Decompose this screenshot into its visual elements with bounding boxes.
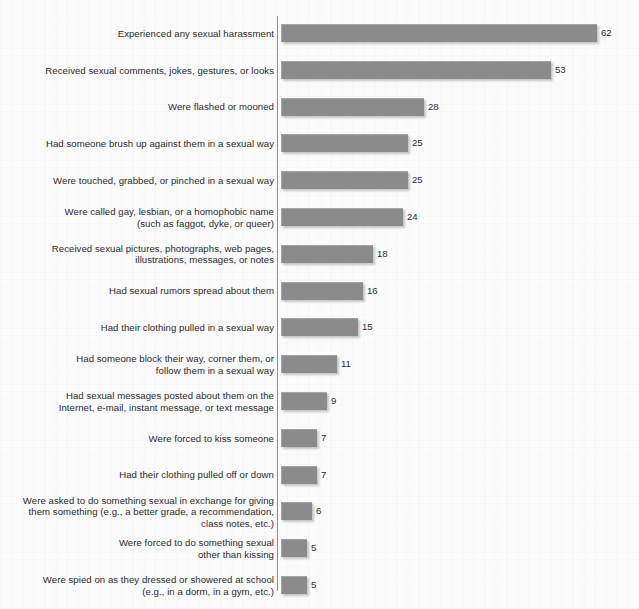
bar-value-label: 16 [367, 285, 378, 296]
bar-wrapper [281, 134, 408, 152]
bar-value-label: 11 [341, 358, 351, 369]
bar [281, 576, 307, 594]
bar [281, 466, 317, 484]
bar-wrapper [281, 466, 317, 484]
bar [281, 171, 408, 189]
bar-value-label: 15 [362, 321, 373, 332]
bar [281, 282, 363, 300]
bar-value-label: 7 [321, 469, 326, 480]
bar-wrapper [281, 355, 337, 373]
category-label: Were asked to do something sexual in exc… [0, 495, 274, 530]
bar-wrapper [281, 208, 403, 226]
category-label: Had someone block their way, corner them… [0, 353, 274, 376]
category-label: Had their clothing pulled in a sexual wa… [0, 322, 274, 334]
bar [281, 355, 337, 373]
bar-value-label: 5 [311, 579, 316, 590]
bar-value-label: 18 [377, 248, 388, 259]
bar-wrapper [281, 576, 307, 594]
bar-value-label: 53 [555, 64, 566, 75]
bar-wrapper [281, 171, 408, 189]
bar-wrapper [281, 429, 317, 447]
bar [281, 98, 424, 116]
bar-value-label: 7 [321, 432, 326, 443]
bar-value-label: 25 [412, 174, 423, 185]
bar [281, 318, 358, 336]
bar [281, 392, 327, 410]
bar-wrapper [281, 392, 327, 410]
bar-value-label: 9 [331, 395, 336, 406]
category-label: Had sexual rumors spread about them [0, 285, 274, 297]
bar-wrapper [281, 282, 363, 300]
category-label: Had someone brush up against them in a s… [0, 138, 274, 150]
category-label: Experienced any sexual harassment [0, 28, 274, 40]
bar [281, 134, 408, 152]
category-label: Had their clothing pulled off or down [0, 469, 274, 481]
bar [281, 245, 373, 263]
bar-value-label: 6 [316, 505, 321, 516]
bar [281, 61, 551, 79]
category-label: Were spied on as they dressed or showere… [0, 574, 274, 597]
bar [281, 429, 317, 447]
bar-wrapper [281, 245, 373, 263]
category-label: Were called gay, lesbian, or a homophobi… [0, 206, 274, 229]
bar-wrapper [281, 24, 597, 42]
category-label: Received sexual pictures, photographs, w… [0, 243, 274, 266]
bar-value-label: 62 [601, 27, 612, 38]
category-label: Were flashed or mooned [0, 101, 274, 113]
bar-wrapper [281, 61, 551, 79]
bar-wrapper [281, 318, 358, 336]
bar [281, 24, 597, 42]
bar-wrapper [281, 539, 307, 557]
category-label: Received sexual comments, jokes, gesture… [0, 65, 274, 77]
bar-value-label: 28 [428, 101, 439, 112]
bar [281, 539, 307, 557]
bar-value-label: 5 [311, 542, 316, 553]
bar [281, 502, 312, 520]
category-axis-line [277, 16, 278, 591]
category-label: Had sexual messages posted about them on… [0, 390, 274, 413]
bar-value-label: 25 [412, 137, 423, 148]
horizontal-bar-chart: Experienced any sexual harassment62Recei… [0, 0, 639, 609]
bar [281, 208, 403, 226]
category-label: Were touched, grabbed, or pinched in a s… [0, 175, 274, 187]
category-label: Were forced to do something sexual other… [0, 537, 274, 560]
bar-value-label: 24 [407, 211, 418, 222]
category-label: Were forced to kiss someone [0, 433, 274, 445]
bar-wrapper [281, 98, 424, 116]
bar-wrapper [281, 502, 312, 520]
